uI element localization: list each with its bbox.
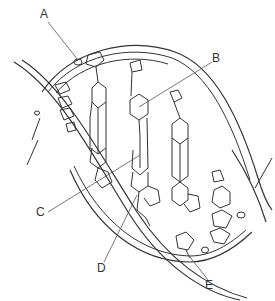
- base-pair-2: [130, 60, 160, 226]
- base-bottom: [176, 232, 194, 258]
- leader-A: [48, 22, 78, 60]
- backbone-strand-front: [14, 60, 247, 300]
- base-pair-4: [210, 170, 232, 244]
- leader-C: [48, 155, 140, 212]
- dna-helix-diagram: A B C D E: [0, 0, 275, 301]
- label-a: A: [40, 8, 48, 20]
- backbone-strand-back: [42, 46, 272, 210]
- backbone-strand-bottom: [70, 166, 252, 262]
- leader-B: [139, 62, 212, 107]
- strand-tick-left-2: [27, 140, 38, 165]
- base-pair-3: [170, 90, 200, 212]
- strand-tick-right: [255, 158, 272, 188]
- label-b: B: [212, 52, 220, 64]
- label-d: D: [97, 262, 106, 274]
- helix-drawing: [0, 0, 275, 301]
- leader-lines: [48, 22, 212, 280]
- label-c: C: [36, 206, 45, 218]
- strand-tick-left: [32, 118, 40, 140]
- label-e: E: [205, 279, 213, 291]
- base-pair-1: [86, 52, 112, 188]
